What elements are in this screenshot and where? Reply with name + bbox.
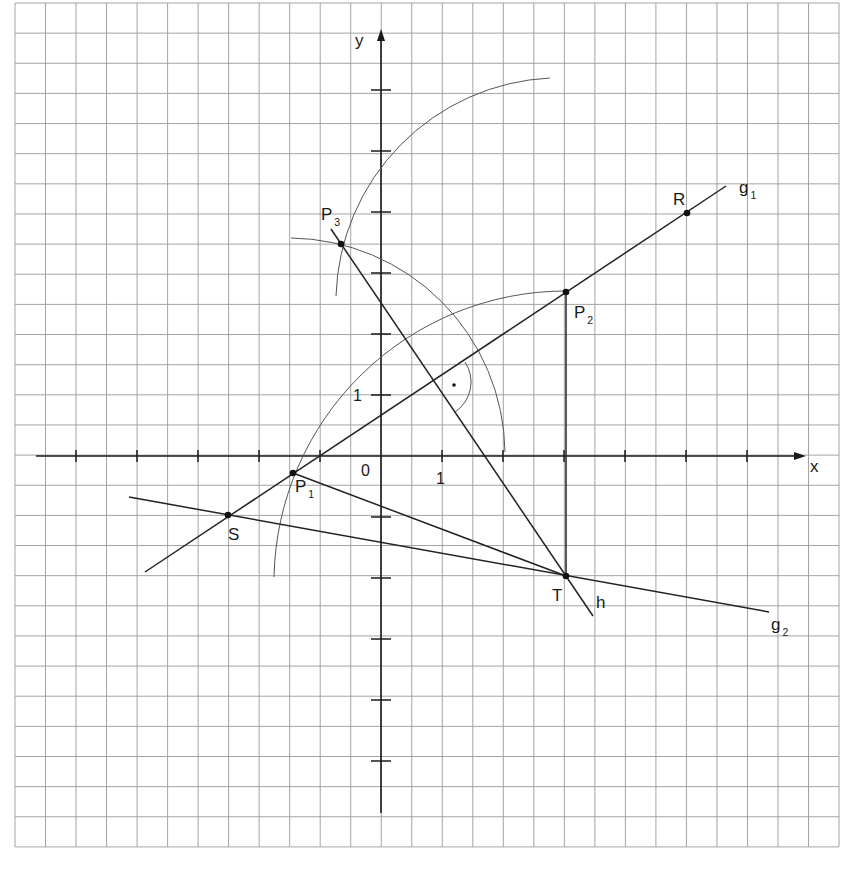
right-angle-mark <box>452 362 471 412</box>
construction-arcs <box>274 78 566 577</box>
tick-label: 1 <box>353 387 362 404</box>
point-S <box>225 512 232 519</box>
point-label-P3: P3 <box>321 205 340 228</box>
point-label-R: R <box>673 190 685 209</box>
y-axis-label: y <box>355 31 364 50</box>
line-label-g2: g2 <box>771 615 788 638</box>
x-axis-label: x <box>810 457 819 476</box>
point-label-T: T <box>552 586 562 605</box>
arc-center-T <box>274 291 566 577</box>
point-P2 <box>563 289 570 296</box>
right-angle-dot <box>452 383 456 387</box>
right-angle-arc <box>455 362 471 412</box>
coordinate-diagram: SP1RP2TP3g1g2hxy011 <box>0 0 853 871</box>
arc-center-P2 <box>336 78 550 296</box>
lines <box>129 186 769 616</box>
point-label-S: S <box>228 525 239 544</box>
x-axis-arrow-icon <box>794 452 806 460</box>
y-axis-arrow-icon <box>377 29 385 41</box>
point-label-P2: P2 <box>574 303 593 326</box>
point-P1 <box>290 470 297 477</box>
coordinate-axes <box>36 29 806 813</box>
grid-paper <box>15 3 839 847</box>
point-P3 <box>338 241 345 248</box>
tick-label: 1 <box>436 470 445 487</box>
segment-P1T <box>293 473 566 576</box>
line-label-h: h <box>596 593 605 612</box>
tick-label: 0 <box>361 462 370 479</box>
point-T <box>563 573 570 580</box>
point-R <box>684 210 691 217</box>
